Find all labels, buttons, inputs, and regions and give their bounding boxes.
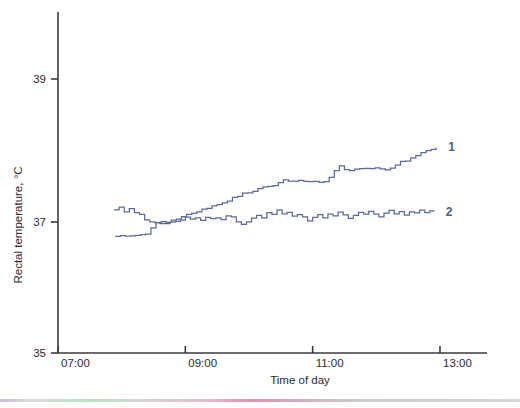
x-tick-label: 11:00 xyxy=(316,357,344,369)
x-axis-title: Time of day xyxy=(270,374,330,386)
scan-artifact-strip xyxy=(0,399,520,402)
y-axis-title: Rectal temperature, °C xyxy=(12,166,24,283)
y-tick-label: 37 xyxy=(33,216,46,228)
series-label-2: 2 xyxy=(446,205,453,219)
data-traces xyxy=(114,148,436,237)
x-axis-ticks: 07:0009:0011:0013:00 xyxy=(58,346,472,369)
y-axis-ticks: 353739 xyxy=(33,73,58,359)
series-label-1: 1 xyxy=(448,140,455,154)
chart-figure: 353739 07:0009:0011:0013:00 Rectal tempe… xyxy=(0,0,520,408)
x-tick-label: 09:00 xyxy=(188,357,217,369)
series-labels: 12 xyxy=(446,140,456,219)
y-tick-label: 39 xyxy=(33,73,46,85)
x-tick-label: 13:00 xyxy=(443,357,472,369)
line-chart: 353739 07:0009:0011:0013:00 Rectal tempe… xyxy=(0,0,520,408)
x-tick-label: 07:00 xyxy=(61,357,90,369)
y-tick-label: 35 xyxy=(33,347,46,359)
series-line-1 xyxy=(115,148,436,237)
